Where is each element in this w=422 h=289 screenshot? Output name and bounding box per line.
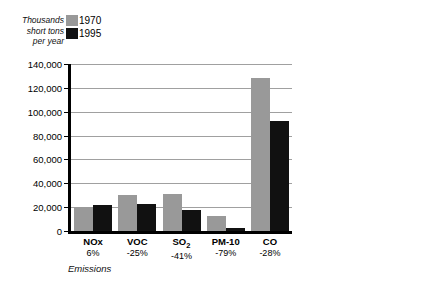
y-tick-mark xyxy=(64,207,69,208)
y-tick-label: 140,000 xyxy=(28,59,62,70)
category-name: PM-10 xyxy=(204,237,248,248)
y-tick-mark xyxy=(64,159,69,160)
category-change: -79% xyxy=(204,248,248,259)
main-plot-area: 140,000120,000100,00080,00060,00040,0002… xyxy=(71,64,292,231)
y-tick-label: 80,000 xyxy=(33,130,62,141)
side-chart-panel: Short tons per year 250,000200,000150,00… xyxy=(305,0,422,289)
y-tick-label: 60,000 xyxy=(33,154,62,165)
category-name: VOC xyxy=(115,237,159,248)
main-chart-panel: Thousands short tons per year 140,000120… xyxy=(0,0,305,289)
bar-CO-1995 xyxy=(270,121,289,231)
emissions-figure: 1970 1995 Thousands short tons per year … xyxy=(0,0,422,289)
bar-VOC-1995 xyxy=(137,204,156,231)
y-tick-label: 0 xyxy=(57,226,62,237)
category-label-NOx: NOx6% xyxy=(71,237,115,258)
gridline xyxy=(71,64,292,65)
main-y-axis-caption: Thousands short tons per year xyxy=(4,15,64,47)
bar-VOC-1970 xyxy=(118,195,137,231)
y-tick-mark xyxy=(64,64,69,65)
bar-PM-10-1970 xyxy=(207,216,226,232)
bar-NOx-1995 xyxy=(93,205,112,231)
y-tick-label: 20,000 xyxy=(33,202,62,213)
main-y-axis-spine xyxy=(68,64,71,231)
y-tick-mark xyxy=(64,112,69,113)
bar-SO2-1970 xyxy=(163,194,182,231)
y-tick-mark xyxy=(64,183,69,184)
bar-SO2-1995 xyxy=(182,210,201,231)
x-axis-title: Emissions xyxy=(68,263,111,274)
category-change: -41% xyxy=(159,251,203,262)
category-change: 6% xyxy=(71,248,115,259)
category-label-VOC: VOC-25% xyxy=(115,237,159,258)
bar-NOx-1970 xyxy=(74,207,93,231)
category-change: -28% xyxy=(248,248,292,259)
bar-CO-1970 xyxy=(251,78,270,231)
y-tick-label: 100,000 xyxy=(28,106,62,117)
y-tick-label: 40,000 xyxy=(33,178,62,189)
category-name: SO2 xyxy=(159,237,203,251)
y-tick-mark xyxy=(64,136,69,137)
category-label-SO2: SO2-41% xyxy=(159,237,203,262)
y-tick-mark xyxy=(64,231,69,232)
category-label-CO: CO-28% xyxy=(248,237,292,258)
category-name: NOx xyxy=(71,237,115,248)
y-tick-label: 120,000 xyxy=(28,82,62,93)
main-x-axis-baseline xyxy=(68,231,292,234)
bar-PM-10-1995 xyxy=(226,228,245,231)
category-change: -25% xyxy=(115,248,159,259)
y-tick-mark xyxy=(64,88,69,89)
category-label-PM-10: PM-10-79% xyxy=(204,237,248,258)
category-name: CO xyxy=(248,237,292,248)
